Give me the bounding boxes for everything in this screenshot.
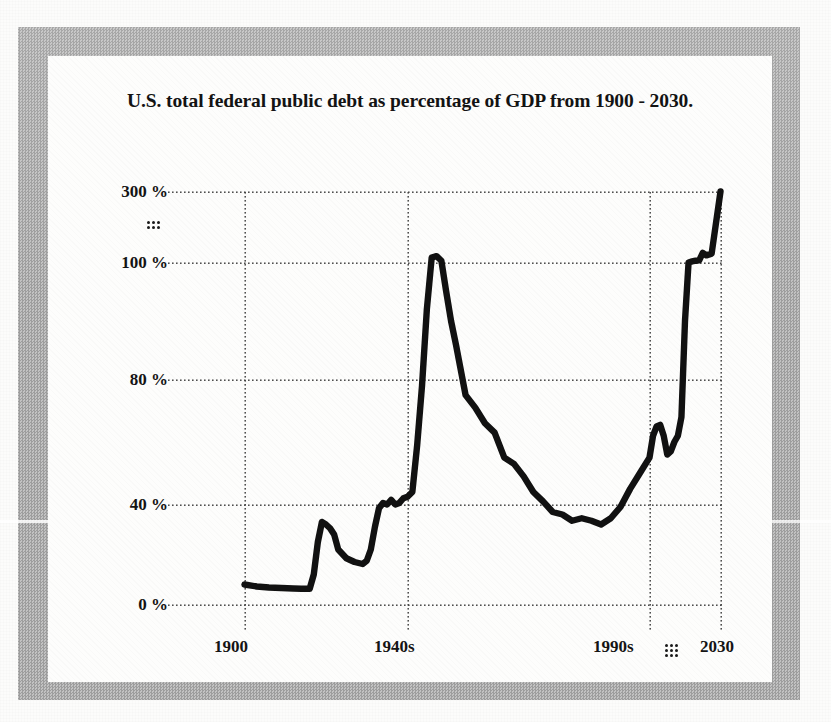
gridline-0 xyxy=(168,605,722,606)
gridline-1940 xyxy=(408,191,409,631)
gridline-1990 xyxy=(650,191,651,631)
gridline-300 xyxy=(168,192,722,193)
gridline-1900 xyxy=(245,191,246,631)
plot-area xyxy=(48,56,772,682)
gridline-2030 xyxy=(721,191,722,631)
gridline-80 xyxy=(168,380,722,381)
figure-canvas: U.S. total federal public debt as percen… xyxy=(0,0,831,722)
debt-gdp-line-series xyxy=(245,192,721,589)
gridline-40 xyxy=(168,505,722,506)
chart-panel: U.S. total federal public debt as percen… xyxy=(48,56,772,682)
